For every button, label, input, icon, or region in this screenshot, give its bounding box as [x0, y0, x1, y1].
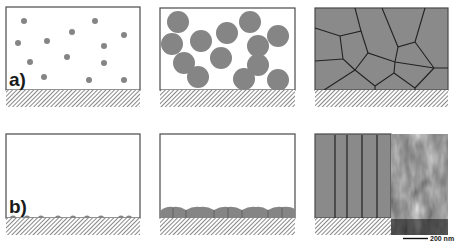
- substrate: [160, 90, 295, 107]
- growth-mode-diagram: a): [0, 0, 456, 242]
- substrate: [315, 90, 448, 107]
- panel-b-surface-nuclei: b): [6, 134, 140, 235]
- row-a: a): [6, 7, 448, 107]
- substrate: [6, 218, 140, 235]
- scale-bar: 200 nm: [403, 235, 454, 242]
- panel-a-particles: [160, 8, 295, 107]
- tem-micrograph: [391, 134, 448, 235]
- scale-bar-label: 200 nm: [430, 235, 454, 242]
- panel-b-surface-layer: [160, 134, 295, 235]
- row-label-a: a): [9, 69, 26, 90]
- panel-b-columnar: [315, 134, 448, 235]
- substrate: [315, 218, 391, 235]
- substrate: [160, 218, 295, 235]
- substrate: [6, 90, 140, 107]
- panel-a-grains: [315, 8, 448, 107]
- row-label-b: b): [9, 196, 27, 217]
- row-b: b): [6, 134, 454, 242]
- panel-a-nuclei: a): [6, 7, 140, 107]
- nucleated-layer: [160, 207, 295, 218]
